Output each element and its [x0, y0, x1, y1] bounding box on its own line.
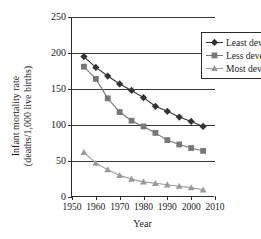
data-point-marker	[116, 172, 123, 178]
data-point-marker	[129, 118, 135, 124]
y-axis-title: Infant mortality rate (deaths/1,000 live…	[10, 36, 34, 196]
x-axis-tick-label: 2000	[182, 202, 201, 212]
x-axis-tick-label: 1980	[134, 202, 153, 212]
data-point-marker	[128, 87, 135, 94]
data-point-marker	[81, 149, 88, 155]
series-least-developed	[80, 53, 206, 130]
data-point-marker	[152, 103, 159, 110]
data-point-marker	[200, 148, 206, 154]
x-axis-tick-label: 2010	[206, 202, 225, 212]
series-most-developed	[81, 149, 207, 192]
legend-item-label: Less developed	[226, 51, 261, 61]
data-point-marker	[104, 166, 111, 172]
data-point-marker	[140, 94, 147, 101]
y-axis-tick-label: 250	[51, 12, 66, 22]
legend-key-marker	[206, 37, 223, 48]
data-point-marker	[117, 109, 123, 115]
x-axis-tick	[215, 196, 216, 200]
x-axis-tick-label: 1990	[158, 202, 177, 212]
y-axis-title-line2: (deaths/1,000 live births)	[22, 36, 34, 196]
data-point-marker	[199, 123, 206, 130]
x-axis-title: Year	[71, 218, 214, 229]
y-axis-tick-label: 150	[51, 84, 66, 94]
data-series-layer	[72, 17, 215, 197]
y-axis-tick-label: 100	[51, 120, 66, 130]
x-axis-tick-label: 1950	[63, 202, 82, 212]
data-point-marker	[164, 108, 171, 115]
legend-key-marker	[206, 63, 223, 74]
series-less-developed	[81, 64, 206, 154]
series-line	[84, 67, 203, 151]
legend-item: Least developed	[206, 36, 261, 49]
triangle-marker	[206, 63, 223, 74]
legend-key-marker	[206, 50, 223, 61]
square-marker	[206, 50, 223, 61]
y-axis-tick-label: 200	[51, 48, 66, 58]
y-axis-tick-label: 0	[61, 192, 66, 202]
legend-item-label: Least developed	[226, 38, 261, 48]
data-point-marker	[116, 80, 123, 87]
legend-item: Most developed	[206, 62, 261, 75]
data-point-marker	[176, 113, 183, 120]
figure-container: Infant mortality rate (deaths/1,000 live…	[0, 0, 261, 239]
diamond-marker	[206, 37, 223, 48]
y-axis-title-line1: Infant mortality rate	[10, 36, 22, 196]
data-point-marker	[93, 76, 99, 82]
plot-area: 050100150200250 195019601970198019902000…	[71, 17, 214, 197]
data-point-marker	[104, 72, 111, 79]
legend-box: Least developedLess developedMost develo…	[201, 32, 261, 79]
data-point-marker	[141, 124, 147, 130]
data-point-marker	[153, 130, 159, 136]
x-axis-tick-label: 1970	[110, 202, 129, 212]
clipped-text-sliver	[3, 0, 33, 5]
data-point-marker	[188, 145, 194, 151]
x-axis-tick-label: 1960	[86, 202, 105, 212]
series-line	[84, 57, 203, 127]
data-point-marker	[105, 95, 111, 101]
data-point-marker	[176, 142, 182, 148]
y-axis-tick-label: 50	[56, 156, 66, 166]
data-point-marker	[188, 118, 195, 125]
legend-item: Less developed	[206, 49, 261, 62]
legend-item-label: Most developed	[226, 64, 261, 74]
data-point-marker	[81, 64, 87, 70]
data-point-marker	[164, 137, 170, 143]
